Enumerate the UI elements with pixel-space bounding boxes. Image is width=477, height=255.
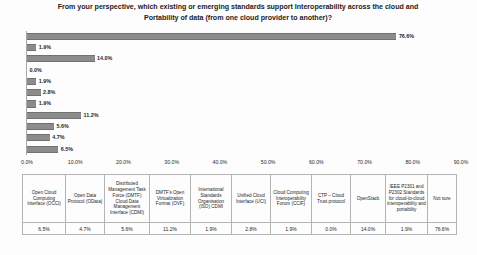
bar [27, 146, 58, 153]
bar-row: 6.5% [27, 144, 461, 155]
table-value-cell: 1.9% [271, 223, 312, 235]
bar-value-label: 2.8% [43, 87, 55, 98]
bar-value-label: 1.9% [39, 98, 51, 109]
data-table: Open Cloud Computing Interface (OCCI)Ope… [22, 174, 457, 235]
bar-value-label: 0.0% [30, 65, 42, 76]
table-value-cell: 76.6% [428, 223, 457, 235]
bar-row: 2.8% [27, 88, 461, 99]
x-axis-tick-label: 30.0% [164, 159, 179, 165]
bar [27, 134, 50, 141]
x-axis-tick-label: 0.0% [21, 159, 33, 165]
bar-value-label: 11.2% [84, 110, 99, 121]
chart-title-line-2: Portability of data (from one cloud prov… [38, 13, 438, 24]
table-header-cell: Open Cloud Computing Interface (OCCI) [23, 175, 66, 223]
x-axis-tick-label: 40.0% [213, 159, 228, 165]
table-header-cell: CTP – Cloud Trust protocol [312, 175, 351, 223]
bar-row: 11.2% [27, 110, 461, 121]
table-value-cell: 1.9% [191, 223, 232, 235]
bar-value-label: 1.9% [39, 42, 51, 53]
bar-value-label: 1.9% [39, 76, 51, 87]
bar-row: 76.6% [27, 31, 461, 42]
bar-value-label: 14.0% [97, 53, 112, 64]
chart-title: From your perspective, which existing or… [38, 2, 438, 23]
x-axis-tick-label: 60.0% [309, 159, 324, 165]
bar-value-label: 76.6% [399, 31, 414, 42]
x-axis-tick-label: 10.0% [68, 159, 83, 165]
table-header-cell: Cloud Computing Interoperability Forum (… [271, 175, 312, 223]
bar [27, 78, 36, 85]
bar [27, 100, 36, 107]
table-value-row: 6.5%4.7%5.6%11.2%1.9%2.8%1.9%0.0%14.0%1.… [23, 223, 457, 235]
table-value-cell: 14.0% [351, 223, 386, 235]
table-header-cell: IEEE P2301 and P2302 Standards for cloud… [386, 175, 428, 223]
x-axis-tick-label: 20.0% [116, 159, 131, 165]
table-header-cell: OpenStack [351, 175, 386, 223]
table-value-cell: 1.9% [386, 223, 428, 235]
x-axis-tick-label: 70.0% [357, 159, 372, 165]
bar [27, 89, 41, 96]
bar-row: 0.0% [27, 65, 461, 76]
bar [27, 55, 95, 62]
table-value-cell: 5.6% [105, 223, 150, 235]
bar [27, 44, 36, 51]
table-header-cell: Unified Cloud Interface (UCI) [232, 175, 271, 223]
table-header-cell: International Standards Organisation (IS… [191, 175, 232, 223]
bar-row: 5.6% [27, 121, 461, 132]
table-header-row: Open Cloud Computing Interface (OCCI)Ope… [23, 175, 457, 223]
table-value-cell: 11.2% [150, 223, 191, 235]
x-axis-tick-label: 90.0% [454, 159, 469, 165]
table-value-cell: 0.0% [312, 223, 351, 235]
table-value-cell: 4.7% [66, 223, 105, 235]
bar-value-label: 4.7% [52, 132, 64, 143]
bar-row: 14.0% [27, 54, 461, 65]
bar-value-label: 6.5% [61, 144, 73, 155]
chart-title-line-1: From your perspective, which existing or… [38, 2, 438, 13]
bar-chart-plot-area: 76.6%1.9%14.0%0.0%1.9%2.8%1.9%11.2%5.6%4… [0, 31, 477, 157]
table-header-cell: DMTF's Open Virtualization Format (OVF) [150, 175, 191, 223]
bar-row: 4.7% [27, 133, 461, 144]
bar-value-label: 5.6% [57, 121, 69, 132]
bar-row: 1.9% [27, 99, 461, 110]
chart-page: From your perspective, which existing or… [0, 0, 477, 255]
table-header-cell: Open Data Protocol (OData) [66, 175, 105, 223]
bar-row: 1.9% [27, 76, 461, 87]
table-value-cell: 2.8% [232, 223, 271, 235]
bar-row: 1.9% [27, 42, 461, 53]
x-axis-tick-labels: 0.0%10.0%20.0%30.0%40.0%50.0%60.0%70.0%8… [0, 159, 477, 169]
table-header-cell: Distributed Management Task Force (DMTF)… [105, 175, 150, 223]
x-axis-tick-label: 80.0% [405, 159, 420, 165]
table-value-cell: 6.5% [23, 223, 66, 235]
bar [27, 33, 396, 40]
x-axis-tick-label: 50.0% [261, 159, 276, 165]
table-header-cell: Not sure [428, 175, 457, 223]
bar [27, 123, 54, 130]
bar [27, 112, 81, 119]
